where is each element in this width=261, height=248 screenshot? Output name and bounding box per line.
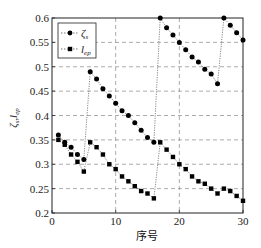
data-point [88, 140, 92, 144]
data-point [228, 189, 232, 193]
data-point [152, 196, 156, 200]
data-point [82, 169, 86, 173]
x-axis-label: 序号 [136, 229, 158, 243]
data-point [184, 167, 188, 171]
data-point [241, 37, 246, 42]
data-point [120, 108, 125, 113]
data-point [145, 135, 150, 140]
data-point [69, 145, 74, 150]
data-point [177, 40, 182, 45]
data-point [101, 152, 105, 156]
legend: ζs lep [58, 23, 96, 58]
data-point [56, 133, 61, 138]
data-point [113, 167, 117, 171]
data-point [241, 199, 245, 203]
data-point [81, 157, 86, 162]
x-tick-label: 30 [238, 215, 250, 227]
data-point [132, 120, 137, 125]
data-point [196, 179, 200, 183]
data-point [158, 140, 162, 144]
data-point [228, 23, 233, 28]
data-point [107, 94, 112, 99]
data-point [164, 147, 168, 151]
data-point [209, 72, 214, 77]
data-point [171, 155, 175, 159]
data-point [120, 174, 124, 178]
x-tick-label: 20 [174, 215, 186, 227]
y-tick-label: 0.25 [30, 183, 50, 195]
data-point [221, 16, 226, 21]
data-point [209, 186, 213, 190]
data-point [190, 55, 195, 60]
series-lep [56, 138, 245, 203]
data-point [215, 191, 219, 195]
data-point [196, 59, 201, 64]
y-tick-label: 0.3 [35, 158, 49, 170]
y-tick-label: 0.4 [35, 110, 49, 122]
y-tick-label: 0.35 [30, 134, 50, 146]
data-point [113, 101, 118, 106]
y-tick-label: 0.55 [30, 36, 50, 48]
data-point [63, 143, 67, 147]
data-point [222, 186, 226, 190]
data-point [145, 191, 149, 195]
data-point [126, 179, 130, 183]
data-point [133, 184, 137, 188]
data-point [190, 174, 194, 178]
y-axis-ticks: 0.20.250.30.350.40.450.50.550.6 [30, 12, 55, 219]
data-point [56, 138, 60, 142]
data-point [75, 152, 80, 157]
data-point [177, 162, 181, 166]
data-point [88, 69, 93, 74]
data-point [100, 86, 105, 91]
square-marker-icon [68, 47, 72, 51]
data-point [94, 145, 98, 149]
data-point [203, 182, 207, 186]
x-tick-label: 10 [110, 215, 122, 227]
data-point [164, 25, 169, 30]
data-point [170, 33, 175, 38]
data-point [75, 160, 79, 164]
chart: 0.20.250.30.350.40.450.50.550.6 0102030 … [0, 0, 261, 248]
data-point [94, 76, 99, 81]
x-tick-label: 0 [49, 215, 55, 227]
data-point [215, 81, 220, 86]
data-point [202, 67, 207, 72]
data-point [139, 189, 143, 193]
y-tick-label: 0.5 [35, 61, 49, 73]
data-point [126, 113, 131, 118]
y-tick-label: 0.6 [35, 12, 49, 24]
data-point [183, 47, 188, 52]
data-point [69, 152, 73, 156]
data-point [139, 128, 144, 133]
circle-marker-icon [68, 31, 73, 36]
data-point [158, 16, 163, 21]
data-point [151, 140, 156, 145]
data-point [234, 194, 238, 198]
y-tick-label: 0.2 [35, 207, 49, 219]
y-axis-label: ζs,lep [7, 108, 21, 128]
y-tick-label: 0.45 [30, 85, 50, 97]
data-point [234, 30, 239, 35]
data-point [107, 162, 111, 166]
